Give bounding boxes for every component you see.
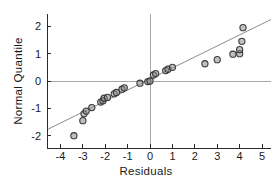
data-point	[121, 85, 127, 91]
data-point	[147, 78, 153, 84]
x-tick-label: -2	[100, 150, 110, 162]
x-tick-label: -3	[78, 150, 88, 162]
y-tick-label: -2	[31, 130, 41, 142]
x-tick-label: 0	[147, 150, 153, 162]
data-point	[137, 80, 143, 86]
x-tick-label: 3	[214, 150, 220, 162]
y-tick-label: 2	[35, 20, 41, 32]
data-point	[237, 46, 243, 52]
data-point	[71, 133, 77, 139]
data-point	[153, 71, 159, 77]
data-point	[240, 25, 246, 31]
data-point	[214, 57, 220, 63]
chart-canvas: -4-3-2-1012345 -2-1012 Residuals Normal …	[0, 0, 276, 186]
x-tick-label: 4	[237, 150, 243, 162]
y-tick-label: 1	[35, 48, 41, 60]
y-tick-label: 0	[35, 75, 41, 87]
data-point	[202, 61, 208, 67]
data-point	[239, 38, 245, 44]
y-tick-label: -1	[31, 102, 41, 114]
data-point	[169, 64, 175, 70]
data-point	[104, 94, 110, 100]
plot-background	[0, 0, 276, 186]
x-tick-label: -4	[56, 150, 66, 162]
data-point	[83, 108, 89, 114]
x-tick-label: 5	[259, 150, 265, 162]
data-point	[89, 104, 95, 110]
data-point	[80, 118, 86, 124]
data-point	[230, 51, 236, 57]
x-axis-title: Residuals	[119, 165, 172, 177]
x-tick-label: 1	[169, 150, 175, 162]
y-axis-title: Normal Quantile	[12, 37, 24, 125]
x-tick-label: -1	[123, 150, 133, 162]
x-tick-label: 2	[192, 150, 198, 162]
normal-quantile-plot: -4-3-2-1012345 -2-1012 Residuals Normal …	[0, 0, 276, 186]
